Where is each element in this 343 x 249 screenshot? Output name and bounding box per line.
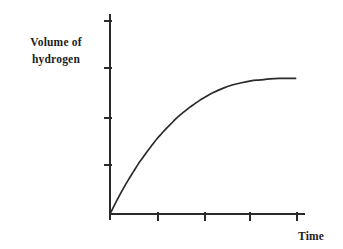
x-axis-label: Time: [298, 228, 324, 245]
y-axis-label-line-1: Volume of: [12, 34, 100, 51]
y-axis-label-line-2: hydrogen: [12, 51, 100, 68]
data-series-line: [110, 78, 296, 214]
y-axis-label: Volume of hydrogen: [12, 34, 100, 68]
hydrogen-volume-chart: Volume of hydrogen Time: [0, 0, 343, 249]
